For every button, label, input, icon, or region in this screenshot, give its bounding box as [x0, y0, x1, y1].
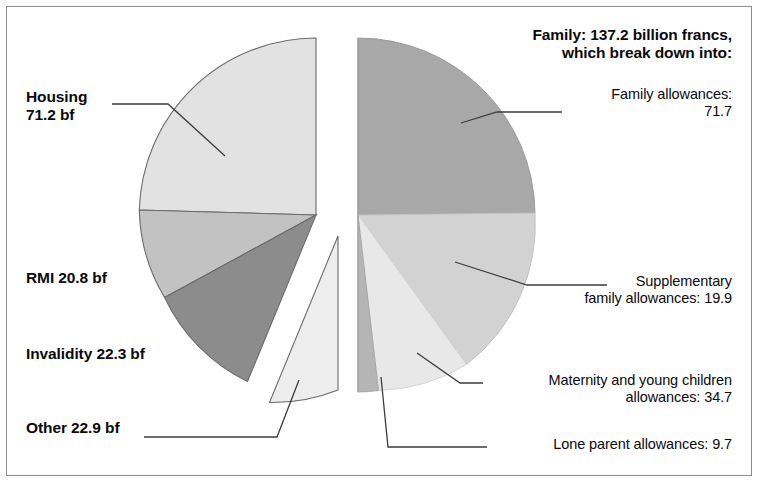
left-pie-chart	[112, 38, 338, 437]
label-family-allowances-line2: 71.7	[704, 103, 732, 119]
label-supplementary: Supplementaryfamily allowances: 19.9	[584, 273, 732, 307]
label-rmi: RMI 20.8 bf	[26, 269, 107, 287]
label-family-allowances: Family allowances:71.7	[611, 86, 732, 120]
right-pie-title-line2: which break down into:	[562, 44, 732, 61]
label-maternity: Maternity and young childrenallowances: …	[549, 372, 732, 406]
label-family-allowances-line1: Family allowances:	[611, 86, 732, 102]
label-housing-line2: 71.2 bf	[26, 106, 74, 123]
label-lone-parent-line1: Lone parent allowances: 9.7	[553, 436, 732, 452]
left-slice-housing[interactable]	[139, 38, 316, 215]
right-slice-family-allowances[interactable]	[358, 38, 535, 215]
label-housing: Housing71.2 bf	[26, 88, 87, 125]
label-supplementary-line2: family allowances: 19.9	[584, 290, 732, 306]
label-maternity-line1: Maternity and young children	[549, 372, 732, 388]
label-supplementary-line1: Supplementary	[636, 273, 732, 289]
right-pie-title-line1: Family: 137.2 billion francs,	[532, 26, 732, 43]
label-rmi-line1: RMI 20.8 bf	[26, 269, 107, 286]
label-invalidity-line1: Invalidity 22.3 bf	[26, 345, 145, 362]
label-maternity-line2: allowances: 34.7	[626, 389, 732, 405]
right-pie-title: Family: 137.2 billion francs,which break…	[532, 26, 732, 63]
pie-charts-figure	[0, 0, 760, 484]
label-other: Other 22.9 bf	[26, 419, 119, 437]
label-housing-line1: Housing	[26, 88, 87, 105]
label-invalidity: Invalidity 22.3 bf	[26, 345, 145, 363]
label-other-line1: Other 22.9 bf	[26, 419, 119, 436]
label-lone-parent: Lone parent allowances: 9.7	[553, 436, 732, 453]
